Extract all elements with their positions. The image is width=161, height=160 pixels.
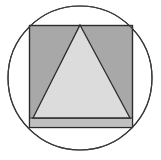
base-band-shape — [30, 118, 133, 128]
figure-canvas: Geometric figure: triangle inscribed in … — [0, 0, 161, 160]
geometric-figure-svg: Geometric figure: triangle inscribed in … — [0, 0, 161, 160]
